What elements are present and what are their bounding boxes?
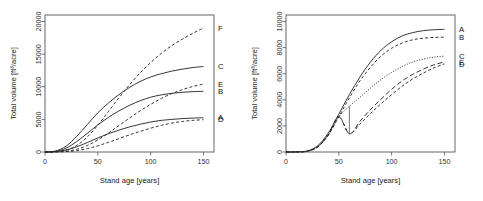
series-label-d: D bbox=[218, 115, 224, 124]
plot-frame bbox=[45, 15, 214, 152]
y-tick-label: 4000 bbox=[275, 92, 284, 108]
y-tick-label: 10000 bbox=[275, 12, 284, 32]
plot-area-left: 05000100001500020000050100150Stand age [… bbox=[9, 12, 224, 185]
series-label-b: B bbox=[218, 87, 223, 96]
series-curve-b bbox=[45, 91, 203, 152]
series-label-f: F bbox=[218, 24, 223, 33]
series-curve-c bbox=[45, 67, 203, 152]
y-tick-label: 6000 bbox=[275, 66, 284, 82]
chart-svg-left: 05000100001500020000050100150Stand age [… bbox=[0, 0, 241, 201]
series-curve-a bbox=[286, 29, 444, 152]
y-axis-title: Total volume [ft³/acre] bbox=[250, 47, 259, 120]
x-tick-label: 100 bbox=[145, 157, 157, 166]
x-tick-label: 150 bbox=[438, 157, 450, 166]
figure-container: 05000100001500020000050100150Stand age [… bbox=[0, 0, 483, 201]
series-curve-e bbox=[45, 84, 203, 152]
x-tick-label: 50 bbox=[94, 157, 102, 166]
series-curve-b bbox=[286, 37, 444, 152]
series-curve-d bbox=[286, 64, 444, 152]
y-tick-label: 15000 bbox=[34, 44, 43, 64]
series-label-b: B bbox=[459, 33, 464, 42]
chart-panel-left: 05000100001500020000050100150Stand age [… bbox=[0, 0, 241, 201]
x-tick-label: 150 bbox=[197, 157, 209, 166]
x-tick-label: 0 bbox=[43, 157, 47, 166]
x-tick-label: 50 bbox=[335, 157, 343, 166]
series-curve-f bbox=[45, 28, 203, 152]
y-tick-label: 8000 bbox=[275, 40, 284, 56]
series-label-c: C bbox=[218, 62, 224, 71]
chart-svg-right: 0200040006000800010000050100150Stand age… bbox=[241, 0, 482, 201]
y-tick-label: 0 bbox=[34, 150, 43, 154]
x-tick-label: 0 bbox=[284, 157, 288, 166]
x-tick-label: 100 bbox=[386, 157, 398, 166]
series-curve-e bbox=[286, 62, 444, 152]
x-axis-title: Stand age [years] bbox=[100, 176, 160, 185]
chart-panel-right: 0200040006000800010000050100150Stand age… bbox=[241, 0, 482, 201]
y-tick-label: 10000 bbox=[34, 77, 43, 97]
y-tick-label: 5000 bbox=[34, 111, 43, 127]
y-tick-label: 0 bbox=[275, 150, 284, 154]
plot-frame bbox=[286, 15, 455, 152]
y-axis-title: Total volume [ft³/acre] bbox=[9, 47, 18, 120]
y-tick-label: 20000 bbox=[34, 12, 43, 32]
plot-area-right: 0200040006000800010000050100150Stand age… bbox=[250, 12, 465, 185]
x-axis-title: Stand age [years] bbox=[341, 176, 401, 185]
y-tick-label: 2000 bbox=[275, 118, 284, 134]
series-label-d: D bbox=[459, 60, 465, 69]
